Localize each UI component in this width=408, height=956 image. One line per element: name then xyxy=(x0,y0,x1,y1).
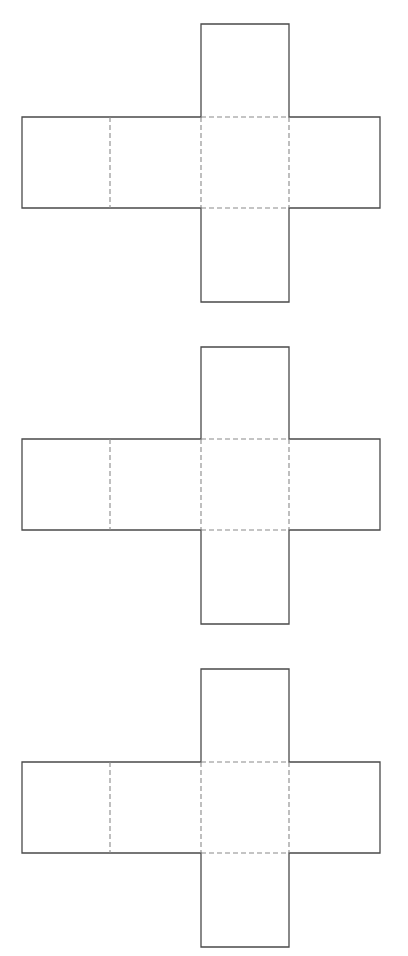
cube-net-3 xyxy=(0,0,408,956)
net-outline xyxy=(22,669,380,947)
